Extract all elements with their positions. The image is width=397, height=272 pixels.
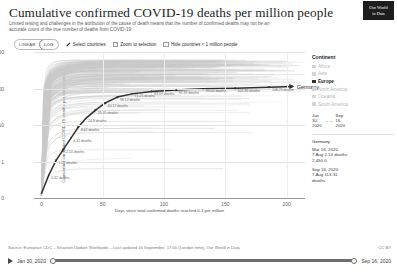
chart-controls: LINEAR LOG Select countries Zoom to sele… xyxy=(14,39,391,49)
chart-page: Cumulative confirmed COVID-19 deaths per… xyxy=(0,0,397,272)
x-tick-label: 200 xyxy=(282,201,290,207)
data-point[interactable] xyxy=(95,110,97,112)
background-country-line xyxy=(41,150,170,195)
grid-line xyxy=(34,52,305,53)
data-point-label: 108.25 deaths xyxy=(272,88,294,92)
tooltip-entries: Mar 16, 20207 Aug 2.14 deaths2,450.0Sep … xyxy=(312,147,394,183)
data-point-label: 0.42 deaths xyxy=(51,176,69,180)
slider-handle-start[interactable] xyxy=(50,258,56,264)
grid-line-vertical xyxy=(287,52,288,198)
continent-legend[interactable]: AfricaAsiaEuropeNorth AmericaOceaniaSout… xyxy=(312,63,394,109)
legend-item-label: Asia xyxy=(318,71,327,76)
x-tick-label: 0 xyxy=(40,201,43,207)
owid-logo-line2: in Data xyxy=(372,11,385,17)
grid-line-vertical xyxy=(103,52,104,198)
legend-swatch xyxy=(312,72,316,76)
checkbox-icon xyxy=(163,42,169,48)
legend-item-europe[interactable]: Europe xyxy=(312,78,394,86)
data-point[interactable] xyxy=(70,138,72,140)
time-slider[interactable]: Jan 30, 2020 Sep 16, 2020 xyxy=(8,255,391,266)
grid-line xyxy=(34,125,305,126)
hide-small-countries-checkbox[interactable]: Hide countries < 1 million people xyxy=(163,42,237,48)
page-subtitle: Limited testing and challenges in the at… xyxy=(9,21,277,33)
owid-logo[interactable]: Our World in Data xyxy=(363,1,394,20)
data-point-label: 4.31 deaths xyxy=(73,139,91,143)
x-tick-label: 150 xyxy=(221,201,229,207)
license-label[interactable]: CC BY xyxy=(378,245,391,250)
legend-swatch xyxy=(312,95,316,99)
x-axis-title: Days since total confirmed deaths reache… xyxy=(34,208,305,213)
zoom-to-selection-label: Zoom to selection xyxy=(120,42,156,47)
side-panel: Continent AfricaAsiaEuropeNorth AmericaO… xyxy=(312,54,394,187)
play-icon[interactable] xyxy=(8,258,13,264)
data-point[interactable] xyxy=(175,89,177,91)
data-point-label: 25.15 deaths xyxy=(98,111,118,115)
slider-handle-end[interactable] xyxy=(351,258,357,264)
legend-item-north-america[interactable]: North America xyxy=(312,85,394,93)
legend-swatch xyxy=(312,65,316,69)
legend-item-africa[interactable]: Africa xyxy=(312,63,394,71)
grid-line xyxy=(34,89,305,90)
y-tick-label: 1,000 xyxy=(0,49,4,55)
data-point-label: 99.02 deaths xyxy=(206,89,226,93)
legend-item-south-america[interactable]: South America xyxy=(312,100,394,108)
legend-item-asia[interactable]: Asia xyxy=(312,70,394,78)
data-point-label: 1.07 deaths xyxy=(59,161,77,165)
select-countries-label: Select countries xyxy=(73,42,106,47)
legend-item-label: Europe xyxy=(318,79,334,84)
grid-line-vertical xyxy=(225,52,226,198)
legend-item-label: North America xyxy=(318,87,347,92)
legend-item-label: Africa xyxy=(318,64,330,69)
legend-item-oceania[interactable]: Oceania xyxy=(312,93,394,101)
y-tick-label: 10 xyxy=(0,122,4,128)
legend-swatch xyxy=(312,87,316,91)
x-axis-line xyxy=(34,198,305,199)
y-tick-label: 0 xyxy=(1,195,4,201)
data-point[interactable] xyxy=(55,160,57,162)
data-point[interactable] xyxy=(117,96,119,98)
data-point[interactable] xyxy=(48,174,50,176)
grid-line-vertical xyxy=(164,52,165,198)
time-end-label: Sep 16, 2020 xyxy=(361,258,391,264)
data-point[interactable] xyxy=(151,91,153,93)
data-point-label: 91.32 deaths xyxy=(179,91,199,95)
data-point-label: 71.25 deaths xyxy=(135,94,155,98)
data-point-label: 101.45 deaths xyxy=(238,89,260,93)
data-point-label: 8.62 deaths xyxy=(81,128,99,132)
date-range-display[interactable]: Jan 30, 2020 ←→ Sep 16, 2020 xyxy=(312,113,394,129)
legend-title: Continent xyxy=(312,54,394,60)
scale-log-option[interactable]: LOG xyxy=(39,39,59,49)
legend-swatch xyxy=(312,80,316,84)
pencil-icon xyxy=(66,42,71,47)
source-note: Source: European CDC – Situation Update … xyxy=(8,245,240,250)
tooltip-entry: Mar 16, 20207 Aug 2.14 deaths2,450.0 xyxy=(312,147,394,163)
slider-track[interactable] xyxy=(50,256,357,265)
data-point[interactable] xyxy=(63,149,65,151)
page-title: Cumulative confirmed COVID-19 deaths per… xyxy=(9,6,391,20)
panel-divider xyxy=(312,134,394,135)
x-tick-label: 100 xyxy=(160,201,168,207)
select-countries-button[interactable]: Select countries xyxy=(66,42,106,47)
zoom-to-selection-checkbox[interactable]: Zoom to selection xyxy=(113,42,157,48)
data-point-label: 14.9 deaths xyxy=(88,119,106,123)
range-start: Jan 30, 2020 xyxy=(312,113,322,129)
tooltip-entry: Sep 16, 20207 Aug 113.31deaths xyxy=(312,167,394,183)
y-tick-label: 100 xyxy=(0,86,4,92)
data-point[interactable] xyxy=(85,118,87,120)
tooltip-entry-line2: deaths xyxy=(312,178,394,183)
scale-toggle[interactable]: LINEAR LOG xyxy=(14,39,59,50)
scale-linear-option[interactable]: LINEAR xyxy=(15,40,40,49)
legend-item-label: South America xyxy=(318,102,348,107)
tooltip-country: Germany xyxy=(312,139,394,144)
data-point[interactable] xyxy=(234,87,236,89)
data-point[interactable] xyxy=(77,127,79,129)
plot-region[interactable]: 0.42 deaths1.07 deaths2.14 deaths4.31 de… xyxy=(34,52,305,198)
data-point[interactable] xyxy=(131,93,133,95)
data-point-label: 40.17 deaths xyxy=(108,104,128,108)
chart-area[interactable]: Cumulative confirmed COVID-19 deaths per… xyxy=(8,52,305,212)
data-point[interactable] xyxy=(269,86,271,88)
y-tick-label: 1 xyxy=(1,159,4,165)
data-point[interactable] xyxy=(202,88,204,90)
data-point[interactable] xyxy=(104,102,106,104)
time-start-label: Jan 30, 2020 xyxy=(17,258,46,264)
